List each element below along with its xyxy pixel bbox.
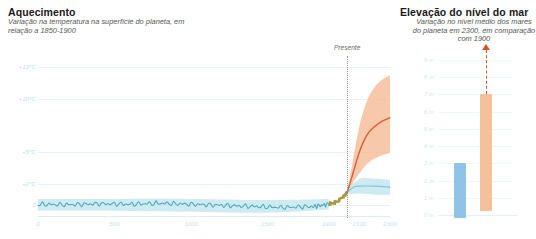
uncertainty-band [38,199,329,213]
sea-level-tick-label: 2 m [398,177,434,184]
gridline [438,181,512,182]
gridline [438,215,518,216]
sea-level-tick-label: 5 m [398,125,434,132]
sea-level-bar [480,94,492,211]
gridline [438,146,512,147]
sea-level-bar [454,163,466,218]
warming-chart: +13°C+10°C+5°C+2°C0 05001000150019002100… [0,46,392,239]
gridline [438,163,512,164]
sea-level-tick-label: 4 m [398,142,434,149]
gridline [438,77,512,78]
uncertainty-band [347,75,390,193]
present-marker-line [347,56,348,218]
projection-arrow-head [482,44,490,50]
sea-level-tick-label: 8 m [398,73,434,80]
gridline [438,129,512,130]
sea-level-tick-label: 6 m [398,108,434,115]
gridline [438,60,512,61]
sea-level-tick-label: 0 m [398,211,434,218]
sea-level-tick-label: 9 m [398,56,434,63]
present-label: Presente [334,44,360,51]
left-panel-subtitle: Variação na temperatura na superfície do… [8,18,208,35]
sea-level-tick-label: 7 m [398,90,434,97]
climate-infographic: Aquecimento Variação na temperatura na s… [0,0,536,239]
right-panel-subtitle: Variação no nível médio dos mares do pla… [412,18,536,44]
sea-level-tick-label: 3 m [398,159,434,166]
sea-level-chart: 9 m8 m7 m6 m5 m4 m3 m2 m1 m0 m [398,52,536,239]
projection-arrow-line [486,50,487,95]
warming-plot-area [0,46,392,239]
series-line [329,192,347,206]
gridline [438,198,512,199]
gridline [438,94,512,95]
sea-level-tick-label: 1 m [398,194,434,201]
gridline [438,112,512,113]
